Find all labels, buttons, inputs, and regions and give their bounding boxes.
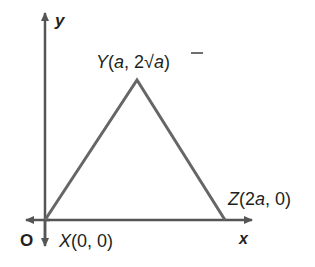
origin-label: O [20, 231, 33, 250]
coordinate-diagram: y x O Y(a, 2√a) Z(2a, 0) X(0, 0) [0, 0, 315, 267]
y-axis-label: y [54, 11, 66, 30]
vertex-y-label: Y(a, 2√a) [96, 52, 170, 72]
triangle-xyz [45, 80, 225, 220]
x-axis-label: x [238, 230, 249, 247]
sqrt-symbol: √ [144, 52, 154, 72]
vertex-x-label: X(0, 0) [58, 231, 113, 251]
vertex-z-label: Z(2a, 0) [227, 189, 291, 209]
